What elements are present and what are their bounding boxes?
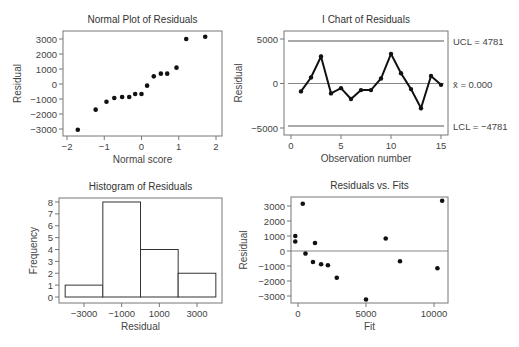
histogram-bar: [65, 285, 103, 297]
data-point: [398, 259, 403, 264]
histogram-bar: [178, 273, 216, 297]
x-axis-label: Observation number: [321, 153, 412, 164]
data-point: [127, 95, 132, 100]
y-tick-label: −5000: [251, 123, 278, 134]
y-tick-label: 0: [280, 246, 285, 257]
data-point: [339, 86, 343, 90]
data-point: [104, 99, 109, 104]
histogram-bar: [141, 250, 179, 298]
y-axis-label: Residual: [238, 231, 249, 270]
y-tick-label: 0: [273, 78, 278, 89]
x-tick-label: 1: [176, 141, 181, 152]
y-tick-label: −3000: [30, 124, 57, 135]
data-point: [364, 297, 369, 302]
y-tick-label: 5: [48, 232, 53, 243]
data-point: [349, 97, 353, 101]
data-point: [399, 71, 403, 75]
y-tick-label: 6: [48, 220, 53, 231]
data-point: [313, 241, 318, 246]
data-point: [409, 87, 413, 91]
data-point: [93, 107, 98, 112]
y-tick-label: 3: [48, 256, 53, 267]
y-tick-label: 2: [48, 268, 53, 279]
x-axis-label: Residual: [121, 321, 160, 332]
data-point: [429, 74, 433, 78]
chart-title: Normal Plot of Residuals: [87, 14, 197, 25]
y-axis-label: Residual: [233, 64, 244, 103]
data-point: [439, 83, 443, 87]
data-point: [319, 262, 324, 267]
x-tick-label: −1000: [108, 308, 135, 319]
normal-plot-panel: Normal Plot of Residuals3000200010000−10…: [12, 14, 222, 165]
x-tick-label: 0: [139, 141, 144, 152]
y-tick-label: 5000: [257, 34, 278, 45]
y-tick-label: 0: [48, 292, 53, 303]
data-point: [440, 198, 445, 203]
data-point: [309, 75, 313, 79]
x-tick-label: 2: [213, 141, 218, 152]
x-tick-label: 10000: [421, 308, 447, 319]
data-point: [329, 91, 333, 95]
y-tick-label: 1000: [36, 64, 57, 75]
histogram-bar: [103, 202, 141, 297]
chart-title: Histogram of Residuals: [89, 181, 192, 192]
data-point: [151, 74, 156, 79]
data-point: [184, 37, 189, 42]
x-tick-label: 15: [436, 140, 447, 151]
data-point: [120, 95, 125, 100]
y-tick-label: −2000: [30, 109, 57, 120]
data-point: [334, 275, 339, 280]
data-point: [145, 83, 150, 88]
y-tick-label: 3000: [264, 201, 285, 212]
plot-area: [291, 197, 448, 303]
y-tick-label: 1000: [264, 231, 285, 242]
data-point: [293, 234, 298, 239]
plot-area: [63, 31, 222, 136]
data-point: [139, 92, 144, 97]
data-point: [435, 266, 440, 271]
data-point: [174, 65, 179, 70]
chart-title: Residuals vs. Fits: [330, 180, 408, 191]
y-tick-label: 1: [48, 280, 53, 291]
data-point: [419, 106, 423, 110]
lcl-label: LCL = −4781: [453, 121, 508, 132]
chart-title: I Chart of Residuals: [322, 14, 410, 25]
x-tick-label: 0: [295, 308, 300, 319]
y-tick-label: 0: [52, 79, 57, 90]
x-tick-label: 0: [288, 140, 293, 151]
y-tick-label: 4: [48, 244, 53, 255]
data-point: [133, 92, 138, 97]
data-point: [303, 251, 308, 256]
y-tick-label: 2000: [264, 216, 285, 227]
residuals-vs-fits-panel: Residuals vs. Fits3000200010000−1000−200…: [238, 180, 448, 332]
data-point: [165, 71, 170, 76]
y-tick-label: 7: [48, 208, 53, 219]
y-tick-label: 8: [48, 197, 53, 208]
data-point: [379, 76, 383, 80]
residual-plots-figure: Normal Plot of Residuals3000200010000−10…: [0, 0, 519, 347]
x-axis-label: Normal score: [113, 154, 173, 165]
data-point: [326, 263, 331, 268]
y-tick-label: −2000: [258, 276, 285, 287]
y-tick-label: −1000: [30, 94, 57, 105]
data-point: [389, 52, 393, 56]
y-axis-label: Residual: [12, 64, 23, 103]
data-point: [311, 260, 316, 265]
data-point: [203, 34, 208, 39]
x-tick-label: 1000: [149, 308, 170, 319]
data-point: [319, 54, 323, 58]
data-point: [300, 201, 305, 206]
y-tick-label: 3000: [36, 34, 57, 45]
center-label: x̄ = 0.000: [453, 79, 492, 90]
x-tick-label: −3000: [71, 308, 98, 319]
x-tick-label: −1: [99, 141, 110, 152]
x-tick-label: 5: [338, 140, 343, 151]
x-tick-label: 5000: [355, 308, 376, 319]
histogram-panel: Histogram of Residuals012345678−3000−100…: [28, 181, 222, 332]
data-point: [76, 127, 81, 132]
y-tick-label: −3000: [258, 291, 285, 302]
y-tick-label: 2000: [36, 49, 57, 60]
ucl-label: UCL = 4781: [453, 36, 504, 47]
x-tick-label: −2: [62, 141, 73, 152]
x-tick-label: 3000: [186, 308, 207, 319]
